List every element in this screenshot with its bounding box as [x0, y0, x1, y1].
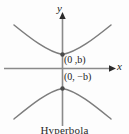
vertex-top-label: (0 ,b)	[64, 55, 86, 65]
hyperbola-plot	[0, 0, 129, 134]
x-axis-arrow-icon	[109, 65, 116, 71]
vertex-bottom-point	[60, 86, 64, 90]
hyperbola-figure: y x (0 ,b) (0, −b) Hyperbola	[0, 0, 129, 134]
figure-caption: Hyperbola	[0, 124, 129, 134]
vertex-bottom-label: (0, −b)	[64, 72, 91, 82]
x-axis-label: x	[117, 61, 122, 72]
y-axis-label: y	[57, 3, 62, 14]
x-axis	[4, 65, 116, 71]
